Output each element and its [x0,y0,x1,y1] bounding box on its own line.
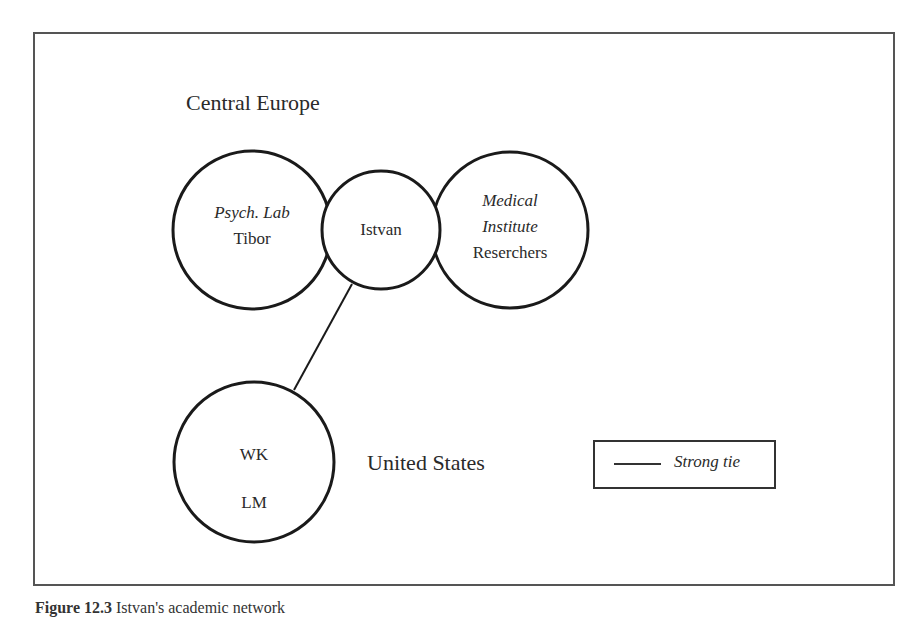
node-psych-lab-label: Psych. Lab Tibor [192,200,312,252]
node-istvan-label: Istvan [331,217,431,243]
node-us-member-1: WK [204,431,304,479]
figure-caption: Figure 12.3 Istvan's academic network [35,599,285,617]
node-medical-institute-title-1: Medical [450,188,570,214]
caption-text: Istvan's academic network [116,599,285,616]
node-medical-institute-title-2: Institute [450,214,570,240]
node-psych-lab-member: Tibor [192,226,312,252]
region-label-central-europe: Central Europe [186,90,320,116]
caption-number: Figure 12.3 [35,599,112,616]
legend-label-strong-tie: Strong tie [674,452,740,472]
node-psych-lab-title: Psych. Lab [192,200,312,226]
node-medical-institute-members: Reserchers [450,240,570,266]
region-label-united-states: United States [367,450,485,476]
node-medical-institute-label: Medical Institute Reserchers [450,188,570,266]
node-us-group-label: WK LM [204,431,304,527]
node-us-member-2: LM [204,479,304,527]
solid-line-icon [614,463,661,465]
strong-tie-edge [294,284,352,390]
legend: Strong tie [593,440,776,489]
